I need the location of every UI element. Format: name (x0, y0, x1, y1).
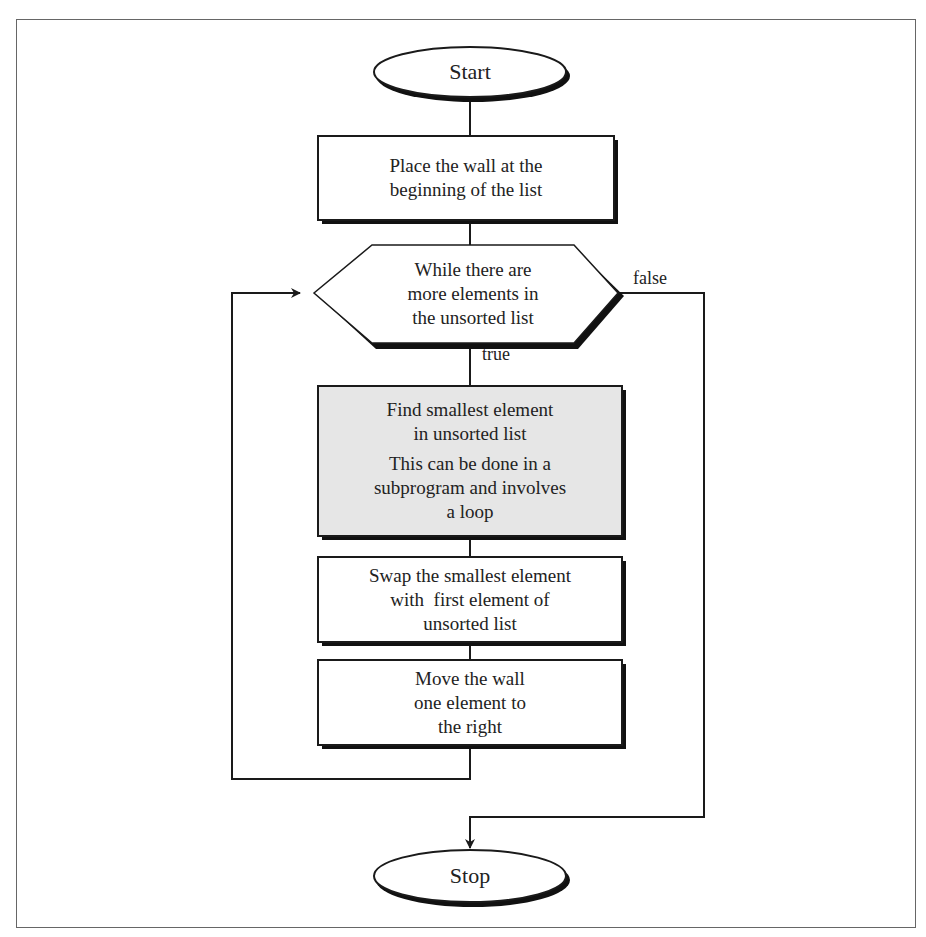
swap-line-1: Swap the smallest element (369, 564, 571, 588)
swap-line-3: unsorted list (423, 612, 516, 636)
place-wall-text: Place the wall at the beginning of the l… (318, 136, 614, 220)
find-line-2: in unsorted list (414, 422, 527, 446)
while-line-1: While there are (414, 258, 531, 282)
find-note-line-1: This can be done in a (389, 452, 551, 476)
place-wall-line-1: Place the wall at the (390, 154, 543, 178)
swap-text: Swap the smallest element with first ele… (318, 557, 622, 642)
edge-label-false: false (633, 268, 667, 289)
find-note-line-3: a loop (447, 500, 494, 524)
start-text: Start (449, 60, 491, 84)
stop-label: Stop (374, 853, 566, 899)
stop-text: Stop (450, 864, 490, 888)
move-line-3: the right (438, 715, 502, 739)
start-label: Start (374, 50, 566, 94)
move-wall-text: Move the wall one element to the right (318, 660, 622, 745)
find-smallest-text: Find smallest element in unsorted list T… (318, 390, 622, 532)
move-line-1: Move the wall (415, 667, 525, 691)
swap-line-2: with first element of (390, 588, 549, 612)
edge-label-true: true (482, 344, 510, 365)
while-line-2: more elements in (408, 282, 539, 306)
while-line-3: the unsorted list (412, 306, 533, 330)
find-note-line-2: subprogram and involves (374, 476, 566, 500)
move-line-2: one element to (414, 691, 526, 715)
find-line-1: Find smallest element (387, 398, 554, 422)
place-wall-line-2: beginning of the list (390, 178, 543, 202)
while-text: While there are more elements in the uns… (372, 247, 574, 341)
